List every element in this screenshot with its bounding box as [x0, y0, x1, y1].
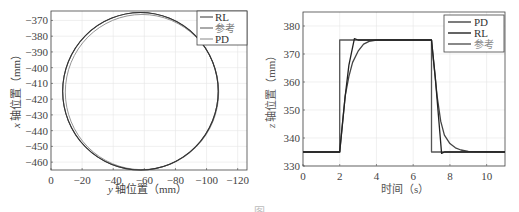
x-tick-label: −100 [195, 174, 218, 186]
x-tick-label: 0 [300, 170, 306, 182]
x-tick-label: 4 [374, 170, 380, 182]
y-tick-label: −420 [25, 93, 48, 105]
y-tick-label: −400 [25, 62, 48, 74]
y-tick-label: 360 [284, 76, 301, 88]
y-tick-label: 350 [284, 104, 301, 116]
left-ylabel: x轴位置（mm） [9, 49, 22, 129]
y-tick-label: −380 [25, 30, 48, 42]
y-tick-label: −440 [25, 125, 48, 137]
left-xlabel: y轴位置（mm） [107, 182, 187, 195]
left-legend: RL 参考 PD [197, 11, 247, 45]
x-tick-label: 10 [481, 170, 493, 182]
figure: 0−20−40−60−80−100−120−370−380−390−400−41… [0, 0, 519, 212]
series-PD [303, 40, 505, 152]
y-tick-label: 340 [284, 132, 301, 144]
y-tick-label: −370 [25, 14, 48, 26]
series-RL [303, 39, 505, 154]
series-参考 [303, 40, 505, 152]
left-legend-pd: PD [215, 33, 229, 45]
x-tick-label: −20 [74, 174, 92, 186]
right-curves [303, 39, 505, 154]
right-chart: 0246810330340350360370380 PD RL 参考 时间（s）… [264, 12, 505, 195]
y-tick-label: −430 [25, 109, 48, 121]
right-legend-ref: 参考 [474, 38, 494, 50]
right-ylabel: z轴位置（mm） [264, 50, 277, 129]
left-legend-rl: RL [215, 11, 229, 23]
y-tick-label: −410 [25, 77, 48, 89]
y-tick-label: 380 [284, 20, 301, 32]
y-tick-label: −460 [25, 156, 48, 168]
right-legend: PD RL 参考 [444, 15, 504, 52]
x-tick-label: 6 [410, 170, 416, 182]
right-xlabel: 时间（s） [381, 183, 429, 195]
x-tick-label: 2 [337, 170, 343, 182]
figure-caption: 图 [0, 206, 519, 212]
x-tick-label: 0 [48, 174, 54, 186]
left-chart: 0−20−40−60−80−100−120−370−380−390−400−41… [9, 11, 250, 195]
y-tick-label: 370 [284, 48, 301, 60]
y-tick-label: 330 [284, 160, 301, 172]
y-tick-label: −450 [25, 140, 48, 152]
y-tick-label: −390 [25, 46, 48, 58]
x-tick-label: −120 [226, 174, 249, 186]
right-legend-rl: RL [474, 27, 488, 39]
x-tick-label: 8 [447, 170, 453, 182]
